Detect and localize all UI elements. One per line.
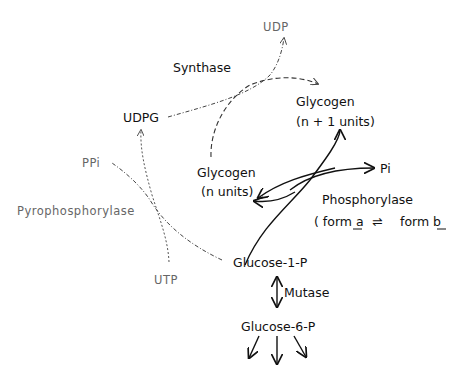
g6p-downstream-arrow-right [294,336,306,357]
glucose-1-p-label: Glucose-1-P [233,255,308,270]
phosphorylase-form-a-label: ( form a [314,214,364,229]
utp-label: UTP [154,273,178,287]
glycogen-n1-label: Glycogen [296,94,355,109]
pi-label: Pi [380,161,391,176]
synthase-label: Synthase [173,60,231,75]
glycogen-n-units-label: (n units) [201,184,253,199]
phosphorylase-to-pi-arrow [290,168,374,190]
ppi-label: PPi [82,156,100,170]
glycogen-pathway-diagram: UDP Synthase UDPG Glycogen (n + 1 units)… [0,0,461,386]
glycogen-n-label: Glycogen [197,165,256,180]
udp-label: UDP [263,20,289,34]
glycogen-n1-units-label: (n + 1 units) [296,114,375,129]
mutase-label: Mutase [284,285,330,300]
glucose-6-p-label: Glucose-6-P [241,319,316,334]
phosphorylase-equilibrium-icon: ⇌ [372,214,383,229]
g6p-downstream-arrow-left [249,336,259,358]
phosphorylase-form-b-label: form b [400,214,441,229]
utp-to-udpg-arrow [141,130,169,262]
pyrophosphorylase-label: Pyrophosphorylase [17,204,135,218]
phosphorylase-label: Phosphorylase [322,192,413,207]
udpg-label: UDPG [123,110,159,125]
udpg-to-udp-arrow [168,38,284,117]
